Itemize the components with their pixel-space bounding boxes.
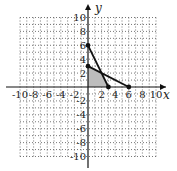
y-tick-label: 4	[80, 54, 86, 65]
x-tick-label: -6	[42, 89, 52, 100]
x-tick-label: -10	[12, 89, 28, 100]
axes	[6, 4, 166, 168]
x-tick-label: 2	[98, 89, 104, 100]
x-tick-label: -4	[56, 89, 66, 100]
shaded-feasible-region	[88, 66, 108, 87]
y-tick-label: 6	[80, 40, 86, 51]
y-tick-label: 8	[80, 26, 86, 37]
y-tick-label: -4	[76, 109, 86, 120]
vertex-dot	[106, 85, 111, 90]
x-tick-label: 10	[150, 89, 163, 100]
y-tick-label: -10	[70, 151, 86, 162]
y-tick-label: -6	[76, 123, 86, 134]
vertex-dot	[86, 64, 91, 69]
y-tick-label: 10	[73, 12, 86, 23]
y-tick-label: 2	[80, 68, 86, 79]
x-tick-label: 6	[126, 89, 132, 100]
y-axis-arrow-icon	[85, 4, 91, 10]
vertex-dot	[86, 43, 91, 48]
x-tick-label: 8	[139, 89, 145, 100]
y-tick-label: -2	[76, 95, 86, 106]
x-tick-label: -8	[29, 89, 39, 100]
x-axis-label: x	[163, 88, 170, 102]
coordinate-plane: -10-8-6-4-2246810-10-8-6-4-2246810 x y	[0, 0, 177, 171]
y-tick-label: -8	[76, 137, 86, 148]
y-axis-label: y	[94, 1, 102, 15]
x-tick-label: 4	[112, 89, 118, 100]
